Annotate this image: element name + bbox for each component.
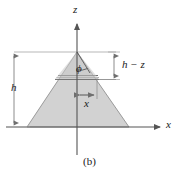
figure-container: z x h h − z x ϕ (b) xyxy=(0,0,179,177)
figure-caption: (b) xyxy=(0,155,179,167)
z-axis-label: z xyxy=(73,4,77,15)
x-axis-label: x xyxy=(166,119,171,130)
geometry-diagram xyxy=(0,0,179,177)
angle-phi-label: ϕ xyxy=(76,63,82,74)
height-label: h xyxy=(11,82,17,93)
dimension-h-minus-z xyxy=(99,52,120,80)
radius-label: x xyxy=(84,98,89,109)
height-minus-z-label: h − z xyxy=(122,59,145,70)
